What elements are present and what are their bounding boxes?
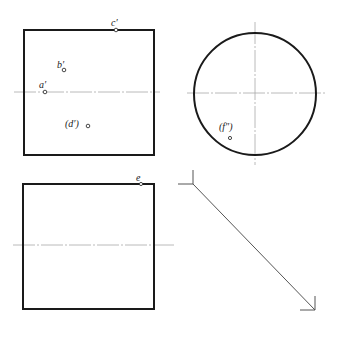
front-view: c′ b′ a′ (d′) (14, 17, 160, 155)
miter-diagonal-line (193, 184, 315, 310)
side-view: (f″) (187, 22, 325, 165)
top-view: e (13, 172, 174, 309)
label-d-prime: (d′) (65, 118, 80, 130)
miter-line-construction (178, 170, 315, 310)
point-d-prime (86, 124, 90, 128)
point-a-prime (43, 90, 47, 94)
top-view-outline (23, 184, 154, 309)
projection-drawing: c′ b′ a′ (d′) (f″) e (0, 0, 338, 346)
label-a-prime: a′ (39, 79, 47, 90)
point-c-prime (114, 28, 118, 32)
label-f-double-prime: (f″) (219, 121, 233, 133)
label-e: e (136, 172, 141, 183)
label-c-prime: c′ (111, 17, 118, 28)
label-b-prime: b′ (57, 59, 65, 70)
point-f-double-prime (228, 136, 231, 139)
